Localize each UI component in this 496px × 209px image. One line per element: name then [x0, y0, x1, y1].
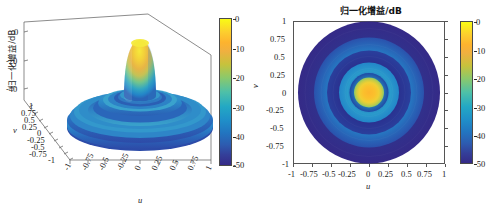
x-axis-title: u — [366, 182, 370, 191]
panel-3d-surface: 归一化增益/dB 0 -20 -40 v 1 0.75 0.5 0.25 0 -… — [0, 0, 248, 209]
z-tick-m40: -40 — [6, 85, 17, 94]
y-tickmark-m05 — [445, 128, 448, 129]
colorbar-right — [460, 21, 473, 164]
x-tick-05: 0.5 — [401, 170, 412, 179]
panel-right-title: 归一化增益/dB — [291, 7, 451, 16]
y-tick-m1: -1 — [282, 160, 289, 169]
x-tick-0: 0 — [366, 170, 370, 179]
y-tick-m025: -0.25 — [266, 106, 284, 115]
y-tickmark-05 — [445, 57, 448, 58]
x-tickmark-05 — [407, 164, 408, 167]
x-tickmark-m05 — [331, 164, 332, 167]
x-tickmark-075 — [426, 164, 427, 167]
x-tick-m1: -1 — [288, 170, 295, 179]
y-tickmark-m075 — [445, 146, 448, 147]
x-tick-m075: -0.75 — [300, 170, 318, 179]
x-tickmark-m025 — [350, 164, 351, 167]
x-tickmark-0 — [369, 164, 370, 167]
colorbar-right-label-0: 0 — [476, 18, 480, 27]
y-axis-title: v — [251, 84, 260, 88]
gain-surface-mesh — [67, 39, 213, 151]
colorbar-right-label-m10: -10 — [474, 47, 485, 56]
x-tickmark-m075 — [312, 164, 313, 167]
x-tick-075: 0.75 — [417, 170, 432, 179]
contour-canvas — [293, 21, 445, 164]
z-tick-0: 0 — [14, 28, 18, 37]
colorbar-left-label-m20: -20 — [233, 74, 244, 83]
y-tickmark-m025 — [445, 110, 448, 111]
v-tick-m075: -0.75 — [29, 150, 47, 159]
v-tick-m1: -1 — [48, 156, 55, 165]
y-tick-1: 1 — [282, 17, 286, 26]
y-tick-m075: -0.75 — [266, 142, 284, 151]
y-tick-025: 0.25 — [270, 71, 285, 80]
surface-3d-canvas — [0, 0, 248, 209]
colorbar-right-label-m30: -30 — [474, 104, 485, 113]
panel-2d-contour: 归一化增益/dB — [248, 0, 496, 209]
y-tick-m05: -0.5 — [270, 124, 283, 133]
y-tickmark-1 — [445, 21, 448, 22]
colorbar-right-label-m40: -40 — [474, 132, 485, 141]
y-tickmark-025 — [445, 75, 448, 76]
colorbar-left-label-m10: -10 — [233, 45, 244, 54]
colorbar-right-label-m50: -50 — [474, 160, 485, 169]
colorbar-left — [219, 18, 232, 166]
v-tick-025: 0.25 — [22, 123, 37, 132]
colorbar-left-label-0: 0 — [235, 15, 239, 24]
y-tick-05: 0.5 — [274, 53, 285, 62]
y-tick-0: 0 — [282, 89, 286, 98]
z-tick-m20: -20 — [6, 57, 17, 66]
main-lobe-core — [354, 78, 384, 108]
u-axis-title: u — [138, 196, 142, 205]
colorbar-left-label-m40: -40 — [233, 133, 244, 142]
x-tickmark-1 — [445, 164, 446, 167]
x-tick-1: 1 — [442, 170, 446, 179]
colorbar-left-label-m50: -50 — [233, 161, 244, 170]
colorbar-right-label-m20: -20 — [474, 75, 485, 84]
y-tickmark-075 — [445, 39, 448, 40]
z-axis-ticks — [24, 31, 28, 89]
figure-root: 归一化增益/dB 0 -20 -40 v 1 0.75 0.5 0.25 0 -… — [0, 0, 496, 209]
x-tick-m025: -0.25 — [338, 170, 356, 179]
x-tick-025: 0.25 — [378, 170, 393, 179]
v-axis-title: v — [13, 126, 17, 135]
y-tickmark-0 — [445, 93, 448, 94]
x-tickmark-m1 — [293, 164, 294, 167]
y-tick-075: 0.75 — [270, 35, 285, 44]
x-tick-m05: -0.5 — [322, 170, 335, 179]
colorbar-left-label-m30: -30 — [233, 104, 244, 113]
x-tickmark-025 — [388, 164, 389, 167]
